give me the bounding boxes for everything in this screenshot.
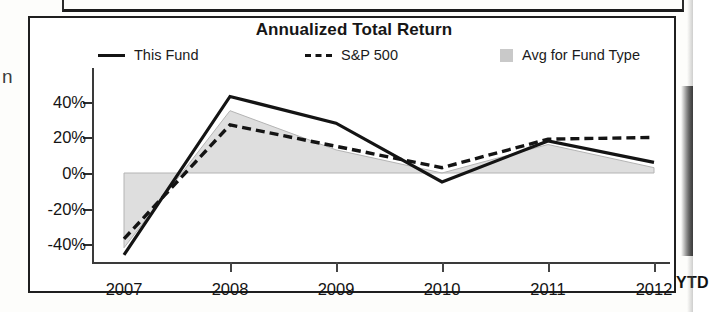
annualized-total-return-panel: Annualized Total Return This Fund S&P 50… bbox=[28, 16, 676, 293]
y-axis-label: 40% bbox=[20, 92, 86, 111]
margin-glyph-fragment: n bbox=[2, 66, 18, 88]
x-axis-label: 2010 bbox=[424, 280, 461, 299]
legend-item-avg-for-fund-type: Avg for Fund Type bbox=[500, 44, 640, 66]
x-axis-label: 2007 bbox=[106, 280, 143, 299]
solid-line-swatch-icon bbox=[98, 54, 125, 57]
chart-title: Annualized Total Return bbox=[30, 20, 678, 40]
series-area-avg-for-fund-type bbox=[124, 111, 654, 248]
dashed-line-swatch-icon bbox=[305, 54, 332, 57]
y-axis-label: 20% bbox=[20, 128, 86, 147]
legend-item-this-fund: This Fund bbox=[98, 44, 198, 66]
series-line-this-fund bbox=[124, 96, 654, 254]
x-axis-tick bbox=[336, 262, 338, 272]
adjacent-panel-fragment bbox=[62, 0, 684, 12]
legend-label: This Fund bbox=[134, 47, 198, 63]
x-axis-line bbox=[92, 262, 670, 264]
series-line-s-p-500 bbox=[124, 125, 654, 239]
scan-edge-shadow-outer bbox=[687, 0, 693, 312]
x-axis-tick bbox=[230, 262, 232, 272]
gray-area-swatch-icon bbox=[500, 49, 513, 62]
chart-series-svg bbox=[92, 74, 670, 270]
chart-plot-area: -40%-20%0%20%40%200720082009201020112012 bbox=[92, 74, 662, 270]
x-axis-label: 2012 bbox=[636, 280, 673, 299]
legend-label: Avg for Fund Type bbox=[522, 47, 640, 63]
y-axis-label: 0% bbox=[20, 164, 86, 183]
chart-legend: This Fund S&P 500 Avg for Fund Type bbox=[30, 44, 678, 66]
x-axis-tick bbox=[548, 262, 550, 272]
legend-label: S&P 500 bbox=[341, 47, 398, 63]
x-axis-tick bbox=[442, 262, 444, 272]
x-axis-label: 2009 bbox=[318, 280, 355, 299]
x-axis-label: 2011 bbox=[530, 280, 565, 299]
legend-item-sp500: S&P 500 bbox=[305, 44, 398, 66]
y-axis-label: -20% bbox=[20, 199, 86, 218]
x-axis-tick bbox=[654, 262, 656, 272]
x-axis-label: 2008 bbox=[212, 280, 249, 299]
y-axis-line bbox=[92, 68, 94, 262]
y-axis-label: -40% bbox=[20, 235, 86, 254]
